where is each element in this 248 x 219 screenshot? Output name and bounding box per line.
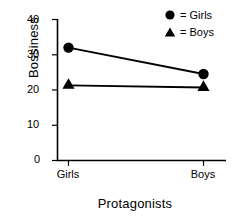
data-point-girls-boys <box>198 69 208 79</box>
series-line-boys <box>69 85 204 87</box>
filled-triangle-icon <box>163 25 177 39</box>
legend-label-boys: = Boys <box>180 26 214 38</box>
data-point-girls-girls <box>63 42 73 52</box>
legend-label-girls: = Girls <box>180 9 212 21</box>
filled-circle-icon <box>163 8 177 22</box>
data-point-boys-boys <box>197 80 209 91</box>
bossiness-line-chart: Bossiness 40 30 20 10 0 Girls Boys Prota… <box>0 0 248 219</box>
legend-item-girls: = Girls <box>163 6 214 23</box>
x-tick-label-girls: Girls <box>38 168 98 180</box>
data-point-boys-girls <box>62 78 74 89</box>
series-line-girls <box>69 48 204 74</box>
x-tick-label-boys: Boys <box>173 168 233 180</box>
legend-item-boys: = Boys <box>163 23 214 40</box>
x-axis-title: Protagonists <box>40 196 230 211</box>
chart-legend: = Girls = Boys <box>163 6 214 40</box>
